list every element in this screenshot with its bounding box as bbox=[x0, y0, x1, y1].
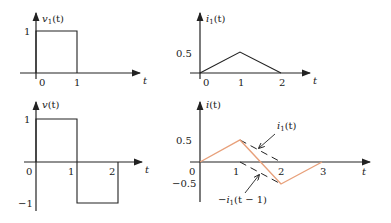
ytick: 0.5 bbox=[176, 135, 192, 146]
annotation-arrow bbox=[245, 175, 259, 193]
xtick: 0 bbox=[203, 77, 209, 88]
x-label: t bbox=[145, 164, 150, 175]
x-label: t bbox=[313, 75, 318, 86]
panel-i1: i1(t) 0.5 0 1 2 t bbox=[176, 13, 318, 88]
xtick: 0 bbox=[39, 77, 45, 88]
figure-svg: v1(t) 1 0 1 t i1(t) 0.5 0 1 2 t v(t) 1 −… bbox=[0, 0, 391, 223]
xtick: 1 bbox=[74, 77, 80, 88]
y-label: v1(t) bbox=[42, 13, 64, 26]
x-label: t bbox=[143, 75, 148, 86]
panel-v: v(t) 1 −1 0 1 2 t bbox=[18, 99, 150, 211]
xtick: 2 bbox=[278, 166, 284, 177]
xtick: 3 bbox=[320, 166, 326, 177]
xtick: 1 bbox=[233, 166, 239, 177]
ytick: −1 bbox=[18, 198, 33, 209]
v-signal bbox=[36, 119, 118, 203]
v1-signal bbox=[36, 31, 77, 73]
annotation-arrow bbox=[259, 134, 275, 148]
annotation-neg-i1-shifted: −i1(t − 1) bbox=[218, 194, 267, 207]
y-label: i(t) bbox=[206, 99, 221, 110]
neg-i1-shifted-dashed bbox=[240, 162, 281, 184]
ytick: −0.5 bbox=[172, 178, 196, 189]
annotation-i1: i1(t) bbox=[277, 120, 297, 133]
i1-signal bbox=[200, 52, 281, 73]
circuit-waveform-figure: v1(t) 1 0 1 t i1(t) 0.5 0 1 2 t v(t) 1 −… bbox=[0, 0, 391, 223]
ytick: 1 bbox=[24, 114, 30, 125]
xtick: 0 bbox=[26, 166, 32, 177]
ytick: 1 bbox=[24, 26, 30, 37]
x-label: t bbox=[362, 166, 367, 177]
xtick: 2 bbox=[279, 77, 285, 88]
y-label: v(t) bbox=[42, 99, 60, 110]
y-label: i1(t) bbox=[206, 13, 226, 26]
panel-i: i(t) 0.5 −0.5 0 1 2 3 t i1(t) −i1(t − 1) bbox=[172, 99, 370, 207]
xtick: 0 bbox=[189, 166, 195, 177]
ytick: 0.5 bbox=[176, 48, 192, 59]
xtick: 1 bbox=[238, 77, 244, 88]
xtick: 2 bbox=[109, 166, 115, 177]
xtick: 1 bbox=[68, 166, 74, 177]
i1-dashed bbox=[240, 140, 281, 162]
panel-v1: v1(t) 1 0 1 t bbox=[20, 13, 148, 88]
